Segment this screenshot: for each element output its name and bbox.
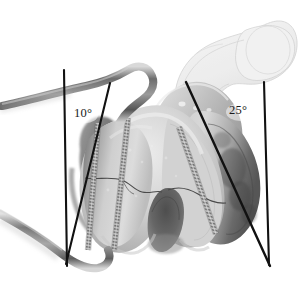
medial-angle-label: 10°: [74, 106, 92, 121]
radiograph-figure: 10° 25°: [0, 0, 299, 294]
radiograph-canvas: [0, 0, 299, 294]
lateral-angle-label: 25°: [229, 103, 247, 118]
